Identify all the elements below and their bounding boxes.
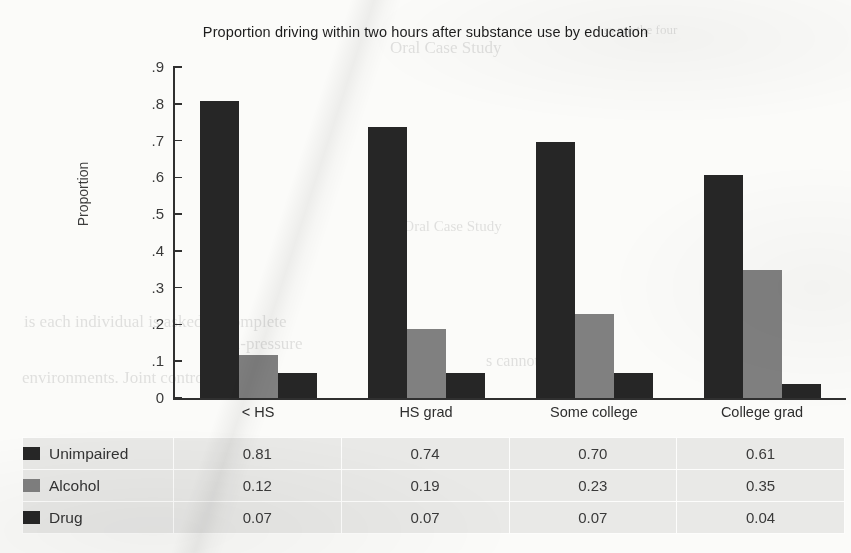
table-cell-drug-3: 0.07 (509, 502, 677, 534)
y-axis-tick-label: .5 (124, 206, 164, 221)
table-cell-unimpaired-1: 0.81 (174, 438, 342, 470)
table-row: Drug0.070.070.070.04 (23, 502, 845, 534)
legend-label: Alcohol (49, 477, 100, 495)
legend-label: Drug (49, 509, 83, 527)
x-axis-line (173, 398, 846, 400)
y-axis-tick (174, 250, 182, 252)
y-axis-line (173, 66, 175, 400)
y-axis-tick (174, 140, 182, 142)
table-cell-unimpaired-3: 0.70 (509, 438, 677, 470)
legend-cell-drug: Drug (23, 502, 174, 534)
bar-drug-2[interactable] (446, 373, 485, 399)
y-axis-tick-label: .2 (124, 316, 164, 331)
legend-swatch-icon (23, 479, 40, 492)
y-axis-tick-label: .8 (124, 96, 164, 111)
table-row: Unimpaired0.810.740.700.61 (23, 438, 845, 470)
y-axis-tick-label: .6 (124, 169, 164, 184)
bar-unimpaired-2[interactable] (368, 127, 407, 399)
y-axis-tick (174, 103, 182, 105)
bar-alcohol-2[interactable] (407, 329, 446, 399)
y-axis-tick-label: .1 (124, 353, 164, 368)
y-axis-tick-label: 0 (124, 390, 164, 405)
y-axis-tick (174, 177, 182, 179)
y-axis-tick (174, 66, 182, 68)
table-cell-drug-4: 0.04 (677, 502, 845, 534)
table-cell-unimpaired-2: 0.74 (341, 438, 509, 470)
legend-swatch-icon (23, 447, 40, 460)
data-table-body: Unimpaired0.810.740.700.61Alcohol0.120.1… (23, 438, 845, 534)
y-axis-title: Proportion (75, 109, 91, 279)
y-axis-tick-label: .4 (124, 243, 164, 258)
legend-swatch-icon (23, 511, 40, 524)
y-axis-tick (174, 213, 182, 215)
y-axis-tick (174, 360, 182, 362)
legend-label: Unimpaired (49, 445, 128, 463)
bar-unimpaired-4[interactable] (704, 175, 743, 399)
bar-alcohol-4[interactable] (743, 270, 782, 399)
table-cell-drug-2: 0.07 (341, 502, 509, 534)
table-cell-unimpaired-4: 0.61 (677, 438, 845, 470)
table-cell-alcohol-2: 0.19 (341, 470, 509, 502)
legend-cell-unimpaired: Unimpaired (23, 438, 174, 470)
y-axis-tick (174, 287, 182, 289)
bar-unimpaired-1[interactable] (200, 101, 239, 399)
y-axis-tick (174, 324, 182, 326)
table-cell-alcohol-1: 0.12 (174, 470, 342, 502)
bar-drug-3[interactable] (614, 373, 653, 399)
y-axis-tick-label: .3 (124, 280, 164, 295)
bar-unimpaired-3[interactable] (536, 142, 575, 399)
x-axis-label-4: College grad (721, 404, 803, 420)
data-table: Unimpaired0.810.740.700.61Alcohol0.120.1… (22, 437, 845, 534)
plot-area (174, 60, 846, 399)
table-cell-alcohol-4: 0.35 (677, 470, 845, 502)
y-axis-tick-label: .7 (124, 133, 164, 148)
table-row: Alcohol0.120.190.230.35 (23, 470, 845, 502)
y-axis-tick-label: .9 (124, 59, 164, 74)
x-axis-label-3: Some college (550, 404, 638, 420)
y-axis-tick (174, 397, 182, 399)
x-axis-label-1: < HS (242, 404, 275, 420)
x-axis-label-group: < HSHS gradSome collegeCollege grad (174, 404, 846, 430)
bar-alcohol-3[interactable] (575, 314, 614, 399)
x-axis-label-2: HS grad (399, 404, 452, 420)
bar-alcohol-1[interactable] (239, 355, 278, 399)
bar-drug-4[interactable] (782, 384, 821, 399)
legend-cell-alcohol: Alcohol (23, 470, 174, 502)
table-cell-alcohol-3: 0.23 (509, 470, 677, 502)
bar-drug-1[interactable] (278, 373, 317, 399)
table-cell-drug-1: 0.07 (174, 502, 342, 534)
